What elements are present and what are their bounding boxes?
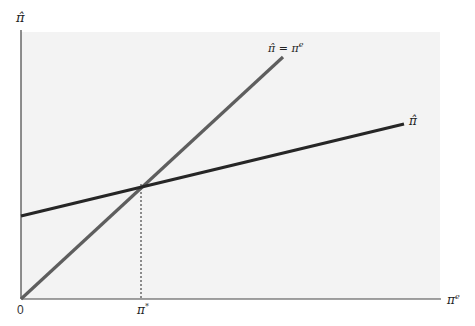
y-axis-label: π̂ xyxy=(15,10,25,25)
flat-line-label: π̂ xyxy=(408,114,418,128)
x-axis-label: πe xyxy=(446,292,460,307)
diagram: π̂ π̂ = πe π̂ 0 π* πe xyxy=(0,0,475,326)
line-45-label: π̂ = πe xyxy=(267,40,304,55)
pi-star-label: π* xyxy=(136,302,149,317)
origin-label: 0 xyxy=(17,303,24,317)
